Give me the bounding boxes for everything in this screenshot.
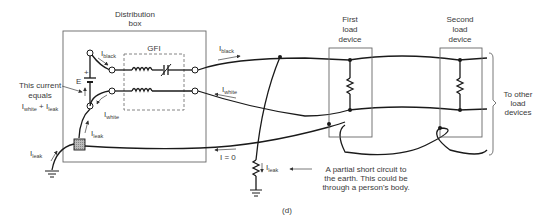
svg-text:First: First bbox=[342, 15, 358, 24]
distribution-box-title-2: box bbox=[129, 19, 142, 28]
ground-block: Ileak Ileak bbox=[30, 109, 104, 177]
battery-plus: + bbox=[84, 68, 89, 77]
other-loads-bracket: To other load devices bbox=[489, 53, 533, 155]
i-black-inner-main: Iblack bbox=[101, 49, 116, 59]
battery-label: E bbox=[76, 77, 81, 86]
svg-text:load: load bbox=[342, 25, 357, 34]
svg-text:Second: Second bbox=[446, 15, 473, 24]
ground-bar-icon bbox=[74, 139, 85, 150]
white-line-inner: Iwhite bbox=[90, 88, 198, 120]
svg-text:Iwhite + Ileak: Iwhite + Ileak bbox=[22, 102, 59, 112]
i-zero-label: I = 0 bbox=[220, 153, 236, 162]
svg-text:This current: This current bbox=[19, 81, 62, 90]
ground-wire-outer: I = 0 bbox=[85, 122, 487, 162]
load-resistor-icon bbox=[457, 78, 463, 94]
i-leak-short: Ileak bbox=[266, 163, 279, 173]
gfi-label: GFI bbox=[147, 44, 160, 53]
short-note-2: the earth. This could be bbox=[324, 174, 408, 183]
short-note-3: through a person's body. bbox=[322, 183, 409, 192]
svg-text:load: load bbox=[510, 99, 525, 108]
svg-text:load: load bbox=[452, 25, 467, 34]
voltage-source: + E bbox=[76, 50, 96, 109]
svg-text:equals: equals bbox=[28, 91, 52, 100]
svg-text:To other: To other bbox=[504, 90, 533, 99]
i-black-outer: Iblack bbox=[219, 44, 234, 54]
svg-text:device: device bbox=[338, 35, 362, 44]
distribution-box-title-1: Distribution bbox=[115, 10, 155, 19]
i-leak-inner: Ileak bbox=[91, 129, 104, 139]
gfi-unit: GFI bbox=[124, 44, 184, 110]
black-coil-icon bbox=[132, 68, 152, 71]
i-leak-ground: Ileak bbox=[30, 149, 43, 159]
short-note-1: A partial short circuit to bbox=[326, 165, 407, 174]
black-line-inner: Iblack bbox=[92, 49, 198, 76]
gfi-circuit-diagram: Distribution box GFI + E Iblack bbox=[0, 0, 544, 224]
second-load-device: Second load device bbox=[438, 15, 482, 137]
white-wire-outer: Iwhite bbox=[198, 85, 487, 116]
figure-caption: (d) bbox=[282, 206, 292, 215]
i-white-inner: Iwhite bbox=[104, 110, 119, 120]
current-annotation: This current equals Iwhite + Ileak bbox=[19, 81, 82, 112]
svg-text:devices: devices bbox=[504, 108, 531, 117]
short-resistor-icon bbox=[253, 160, 259, 176]
svg-text:device: device bbox=[448, 35, 472, 44]
load-resistor-icon bbox=[347, 78, 353, 94]
first-load-device: First load device bbox=[327, 15, 372, 137]
white-coil-icon bbox=[132, 89, 152, 92]
i-white-outer: Iwhite bbox=[222, 85, 237, 95]
